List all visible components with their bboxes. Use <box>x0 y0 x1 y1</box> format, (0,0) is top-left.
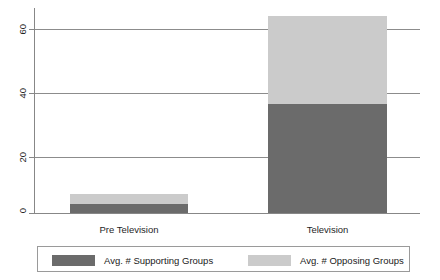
bar-television[interactable] <box>268 16 387 213</box>
y-tick-label-0: 0 <box>18 208 28 213</box>
y-tick-0 <box>29 213 34 214</box>
bar-segment-opposing[interactable] <box>70 194 188 204</box>
y-tick-label-60: 60 <box>18 24 28 35</box>
legend-entry-opposing[interactable]: Avg. # Opposing Groups <box>248 247 404 273</box>
legend-swatch-supporting-icon <box>52 255 95 266</box>
plot-area: 60 40 20 0 Pre Television Tele <box>34 8 420 214</box>
x-category-label-television: Television <box>268 224 387 235</box>
y-tick-label-40: 40 <box>18 88 28 99</box>
y-tick-20 <box>29 157 34 158</box>
legend-entry-supporting[interactable]: Avg. # Supporting Groups <box>52 247 213 273</box>
legend-label-supporting: Avg. # Supporting Groups <box>104 255 213 266</box>
x-category-label-pre-television: Pre Television <box>70 224 188 235</box>
legend-swatch-opposing-icon <box>248 255 291 266</box>
bar-segment-supporting[interactable] <box>70 204 188 213</box>
y-axis-line <box>34 8 35 214</box>
bar-segment-supporting[interactable] <box>268 104 387 213</box>
x-axis-line <box>34 213 420 214</box>
stacked-bar-chart: 60 40 20 0 Pre Television Tele <box>0 0 440 280</box>
legend: Avg. # Supporting Groups Avg. # Opposing… <box>37 246 410 272</box>
y-tick-60 <box>29 29 34 30</box>
legend-label-opposing: Avg. # Opposing Groups <box>300 255 404 266</box>
bar-pre-television[interactable] <box>70 194 188 213</box>
bar-segment-opposing[interactable] <box>268 16 387 104</box>
y-tick-40 <box>29 93 34 94</box>
y-tick-label-20: 20 <box>18 152 28 163</box>
